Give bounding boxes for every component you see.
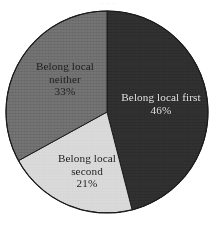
pie-chart-figure: · · · Belong local first 46% Belong loca…: [0, 0, 216, 225]
pie-label-belong-local-neither-name-line1: Belong local: [20, 60, 110, 73]
pie-label-belong-local-neither-name-line2: neither: [20, 73, 110, 86]
pie-label-belong-local-second-value: 21%: [42, 177, 132, 190]
pie-label-belong-local-first-name: Belong local first: [118, 91, 204, 104]
pie-label-belong-local-first-value: 46%: [118, 104, 204, 117]
pie-label-belong-local-neither-value: 33%: [20, 85, 110, 98]
pie-label-belong-local-second-name-line1: Belong local: [42, 152, 132, 165]
pie-label-belong-local-second: Belong local second 21%: [42, 152, 132, 190]
pie-label-belong-local-second-name-line2: second: [42, 165, 132, 178]
pie-label-belong-local-neither: Belong local neither 33%: [20, 60, 110, 98]
pie-label-belong-local-first: Belong local first 46%: [118, 91, 204, 116]
